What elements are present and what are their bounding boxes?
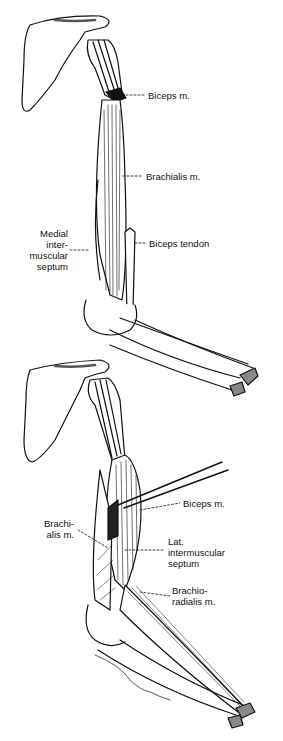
- anatomy-illustration: [0, 0, 283, 741]
- label-medial-septum: Medial inter- muscular septum: [22, 228, 68, 272]
- top-arm-drawing: [22, 16, 258, 396]
- label-brachialis-bottom: Brachi- alis m.: [28, 518, 74, 540]
- label-biceps-top: Biceps m.: [148, 90, 190, 101]
- illustrator-signature: [95, 655, 170, 700]
- label-lat-septum: Lat. intermuscular septum: [168, 536, 225, 569]
- label-biceps-bottom: Biceps m.: [183, 498, 225, 509]
- label-brachioradialis: Brachio- radialis m.: [172, 585, 215, 607]
- label-brachialis-top: Brachialis m.: [146, 171, 200, 182]
- label-biceps-tendon: Biceps tendon: [149, 238, 209, 249]
